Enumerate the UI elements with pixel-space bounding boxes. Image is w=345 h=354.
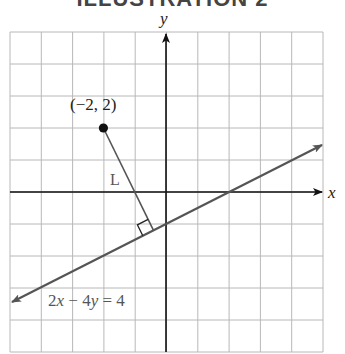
coordinate-plane: x y (−2, 2) L 2x − 4y = 4 xyxy=(0,0,345,354)
y-axis-label: y xyxy=(158,9,168,28)
point-marker xyxy=(99,123,108,132)
x-axis-label: x xyxy=(327,183,336,202)
point-label: (−2, 2) xyxy=(70,95,116,114)
equation-line xyxy=(166,145,322,224)
equation-label: 2x − 4y = 4 xyxy=(48,291,125,310)
segment-label: L xyxy=(110,171,120,188)
